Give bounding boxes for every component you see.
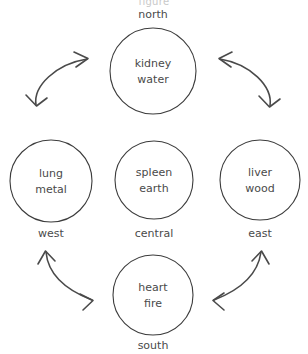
arrow-northeast [219, 52, 280, 107]
node-west-circle[interactable] [10, 140, 92, 222]
node-central-circle[interactable] [115, 141, 193, 219]
arrow-northwest [26, 52, 88, 106]
node-south-circle[interactable] [113, 255, 193, 335]
direction-label-south: south [138, 339, 169, 352]
node-south-element: fire [144, 297, 162, 310]
direction-label-east: east [248, 227, 272, 240]
node-north-element: water [137, 73, 169, 86]
node-south-organ: heart [138, 281, 168, 294]
arrow-northwest-curve [36, 59, 87, 105]
node-central-organ: spleen [136, 166, 172, 179]
node-central-element: earth [139, 182, 168, 195]
node-west-element: metal [35, 183, 67, 196]
node-east[interactable]: liver wood east [220, 140, 300, 240]
node-west-organ: lung [39, 167, 63, 180]
node-north[interactable]: kidney water north [110, 8, 196, 114]
five-elements-diagram: figure kidney w [0, 0, 308, 354]
node-central[interactable]: spleen earth central [115, 141, 193, 240]
direction-label-central: central [135, 227, 173, 240]
node-north-organ: kidney [135, 57, 172, 70]
direction-label-north: north [138, 8, 168, 21]
node-south[interactable]: heart fire south [113, 255, 193, 352]
arrow-southwest [38, 251, 93, 310]
diagram-canvas: kidney water north lung metal west splee… [0, 0, 308, 354]
node-east-element: wood [245, 182, 274, 195]
node-east-circle[interactable] [220, 140, 300, 220]
direction-label-west: west [38, 227, 64, 240]
node-north-circle[interactable] [110, 28, 196, 114]
node-east-organ: liver [248, 166, 272, 179]
node-west[interactable]: lung metal west [10, 140, 92, 240]
arrow-southeast [213, 251, 269, 310]
arrow-southeast-head-down-left [213, 293, 224, 310]
